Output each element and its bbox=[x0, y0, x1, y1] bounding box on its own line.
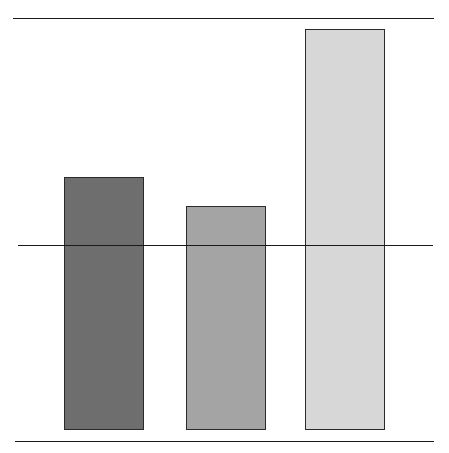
bar-1 bbox=[64, 177, 144, 430]
bar-3 bbox=[305, 29, 385, 430]
reference-line bbox=[18, 245, 433, 246]
bottom-rule-line bbox=[15, 441, 434, 442]
bar-chart bbox=[0, 0, 449, 453]
top-rule-line bbox=[13, 18, 434, 19]
bar-2 bbox=[186, 206, 266, 430]
